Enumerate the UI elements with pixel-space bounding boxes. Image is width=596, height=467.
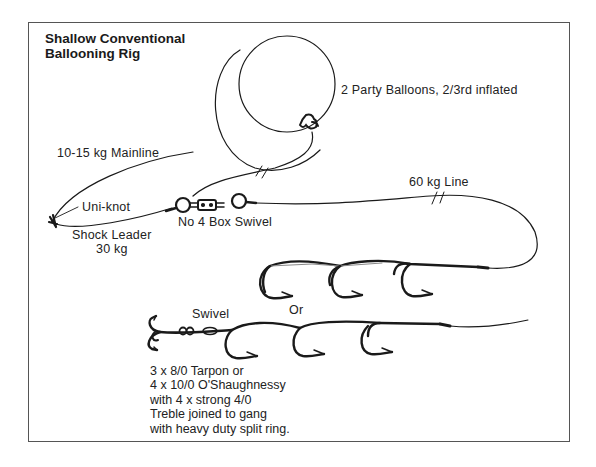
note-line-3: with 4 x strong 4/0: [150, 393, 290, 407]
note-line-5: with heavy duty split ring.: [150, 422, 290, 436]
note-line-1: 3 x 8/0 Tarpon or: [150, 364, 290, 378]
hook-notes: 3 x 8/0 Tarpon or 4 x 10/0 O'Shaughnessy…: [150, 364, 290, 436]
note-line-4: Treble joined to gang: [150, 407, 290, 421]
label-box-swivel: No 4 Box Swivel: [178, 215, 272, 229]
label-mainline: 10-15 kg Mainline: [57, 146, 159, 160]
label-60kg-line: 60 kg Line: [409, 175, 469, 189]
label-shock-leader: Shock Leader: [72, 228, 152, 242]
box-swivel-icon: [166, 194, 256, 212]
balloons-icon: [215, 36, 335, 170]
uni-knot-icon: [49, 215, 57, 227]
hook-gang-bottom-icon: [226, 320, 528, 358]
label-swivel: Swivel: [192, 307, 229, 321]
treble-and-swivel-icon: [149, 316, 232, 350]
label-uniknot: Uni-knot: [82, 200, 130, 214]
label-shock-leader-strength: 30 kg: [96, 242, 128, 256]
line-60kg: [256, 195, 537, 268]
hook-gang-top-icon: [260, 261, 488, 298]
label-balloons: 2 Party Balloons, 2/3rd inflated: [341, 83, 518, 97]
label-or: Or: [289, 303, 303, 317]
note-line-2: 4 x 10/0 O'Shaughnessy: [150, 378, 290, 392]
